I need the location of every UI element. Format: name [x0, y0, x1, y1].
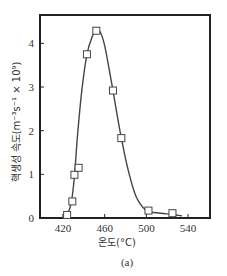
data-point-marker [145, 207, 152, 214]
y-tick-label: 4 [29, 37, 35, 49]
x-tick-label: 500 [138, 222, 155, 234]
y-axis-label: 핵생성 속도(m⁻³s⁻¹ × 10⁹) [11, 61, 22, 182]
x-axis-label: 온도(°C) [98, 237, 136, 248]
y-tick-label: 0 [29, 212, 35, 224]
y-tick-label: 2 [29, 125, 35, 137]
data-markers [64, 27, 176, 218]
plot-frame [40, 15, 210, 218]
y-tick-label: 3 [29, 81, 35, 93]
x-tick-label: 540 [180, 222, 197, 234]
fit-curve [63, 30, 182, 218]
data-point-marker [93, 27, 100, 34]
x-tick-label: 420 [55, 222, 72, 234]
data-point-marker [118, 135, 125, 142]
data-point-marker [75, 164, 82, 171]
nucleation-rate-chart: 42046050054001234 온도(°C) 핵생성 속도(m⁻³s⁻¹ ×… [0, 0, 227, 276]
data-point-marker [69, 198, 76, 205]
data-point-marker [83, 51, 90, 58]
data-point-marker [64, 211, 71, 218]
data-point-marker [110, 87, 117, 94]
plot-border [40, 15, 210, 218]
x-tick-label: 460 [96, 222, 113, 234]
data-point-marker [71, 171, 78, 178]
y-tick-label: 1 [29, 168, 35, 180]
data-point-marker [169, 210, 176, 217]
axis-ticks: 42046050054001234 [29, 37, 197, 234]
figure-caption: (a) [121, 256, 134, 269]
